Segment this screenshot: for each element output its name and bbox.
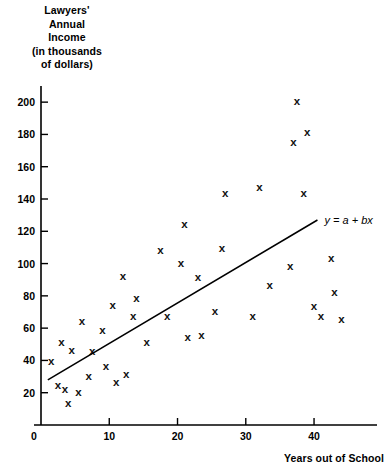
y-axis-tick-label: 140 — [17, 193, 35, 205]
data-point-marker: x — [120, 270, 127, 282]
y-axis-tick-label: 160 — [17, 161, 35, 173]
y-axis-tick-label: 20 — [23, 387, 35, 399]
x-axis-tick-label: 20 — [172, 430, 184, 442]
regression-line-group: y = a + bx — [48, 214, 373, 380]
y-axis-tick-label: 80 — [23, 290, 35, 302]
data-point-marker: x — [109, 299, 116, 311]
y-axis-tick-label: 100 — [17, 258, 35, 270]
y-axis-tick-label: 200 — [17, 96, 35, 108]
y-axis-tick-label: 180 — [17, 128, 35, 140]
data-point-marker: x — [198, 329, 205, 341]
x-axis-title: Years out of School — [284, 452, 384, 464]
x-axis: 010203040 — [31, 418, 377, 442]
data-point-marker: x — [338, 313, 345, 325]
data-point-marker: x — [130, 310, 137, 322]
data-point-marker: x — [65, 397, 72, 409]
data-point-marker: x — [287, 260, 294, 272]
y-axis-tick-label: 120 — [17, 225, 35, 237]
scatter-plot-figure: Lawyers' Annual Income (in thousands of … — [0, 0, 390, 469]
data-point-marker: x — [195, 271, 202, 283]
data-point-marker: x — [157, 244, 164, 256]
y-axis: 20406080100120140160180200 — [17, 86, 48, 425]
data-point-marker: x — [256, 181, 263, 193]
data-point-marker: x — [318, 310, 325, 322]
y-axis-tick-label: 40 — [23, 354, 35, 366]
x-axis-tick-label: 40 — [308, 430, 320, 442]
data-point-marker: x — [113, 376, 120, 388]
regression-line — [48, 220, 318, 380]
data-point-marker: x — [294, 95, 301, 107]
regression-equation-label: y = a + bx — [323, 214, 373, 226]
data-point-marker: x — [222, 187, 229, 199]
data-point-group: xxxxxxxxxxxxxxxxxxxxxxxxxxxxxxxxxxxxxxxx… — [48, 95, 345, 409]
data-point-marker: x — [164, 310, 171, 322]
data-point-marker: x — [328, 252, 335, 264]
data-point-marker: x — [58, 336, 65, 348]
data-point-marker: x — [178, 257, 185, 269]
data-point-marker: x — [69, 344, 76, 356]
data-point-marker: x — [123, 368, 130, 380]
x-axis-ticks: 010203040 — [31, 418, 320, 442]
data-point-marker: x — [301, 187, 308, 199]
y-axis-ticks: 20406080100120140160180200 — [17, 96, 48, 399]
x-axis-tick-label: 10 — [103, 430, 115, 442]
data-point-marker: x — [219, 242, 226, 254]
data-point-marker: x — [249, 310, 256, 322]
y-axis-tick-label: 60 — [23, 322, 35, 334]
data-point-marker: x — [304, 126, 311, 138]
data-point-marker: x — [144, 336, 151, 348]
data-point-marker: x — [212, 305, 219, 317]
data-point-marker: x — [79, 315, 86, 327]
data-point-marker: x — [266, 279, 273, 291]
data-point-marker: x — [133, 292, 140, 304]
data-point-marker: x — [75, 386, 82, 398]
x-axis-tick-label: 30 — [240, 430, 252, 442]
data-point-marker: x — [185, 331, 192, 343]
data-point-marker: x — [62, 383, 69, 395]
data-point-marker: x — [290, 136, 297, 148]
data-point-marker: x — [331, 286, 338, 298]
x-axis-tick-label: 0 — [31, 430, 37, 442]
data-point-marker: x — [99, 324, 106, 336]
plot-canvas: 20406080100120140160180200 010203040 xxx… — [0, 0, 390, 469]
data-point-marker: x — [86, 370, 93, 382]
data-point-marker: x — [181, 218, 188, 230]
data-point-marker: x — [103, 360, 110, 372]
data-point-marker: x — [48, 355, 55, 367]
